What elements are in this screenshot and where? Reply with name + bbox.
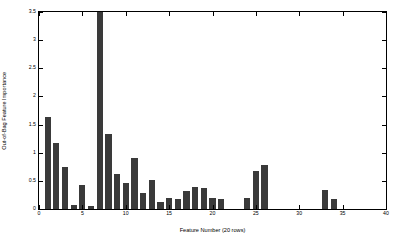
bar bbox=[149, 180, 155, 209]
x-axis-tick bbox=[299, 205, 300, 209]
x-axis-tick-top bbox=[256, 12, 257, 16]
x-axis-tick-label: 35 bbox=[340, 211, 346, 216]
y-axis-tick-right bbox=[382, 68, 386, 69]
bar bbox=[88, 206, 94, 209]
y-axis-tick bbox=[39, 68, 43, 69]
y-axis-tick-label: 1 bbox=[33, 150, 36, 155]
bar bbox=[53, 143, 59, 209]
y-axis-label: Out-of-Bag Feature Importance bbox=[0, 11, 10, 210]
y-axis-tick-label: 3.5 bbox=[29, 9, 36, 14]
x-axis-tick-top bbox=[299, 12, 300, 16]
x-axis-tick-top bbox=[213, 12, 214, 16]
y-axis-tick-right bbox=[382, 153, 386, 154]
y-axis-tick bbox=[39, 96, 43, 97]
x-axis-tick-top bbox=[343, 12, 344, 16]
bar bbox=[183, 191, 189, 209]
x-axis-tick-label: 5 bbox=[81, 211, 84, 216]
x-axis-tick bbox=[386, 205, 387, 209]
x-axis-tick-label: 10 bbox=[123, 211, 129, 216]
bar bbox=[71, 205, 77, 210]
bar bbox=[253, 171, 259, 209]
bar bbox=[140, 193, 146, 209]
x-axis-tick bbox=[343, 205, 344, 209]
x-axis-tick-label: 30 bbox=[296, 211, 302, 216]
x-axis-tick bbox=[39, 205, 40, 209]
x-axis-tick-label: 40 bbox=[383, 211, 389, 216]
figure: Out-of-Bag Feature Importance 00.511.522… bbox=[0, 0, 406, 245]
bar bbox=[175, 199, 181, 209]
x-axis-tick-top bbox=[169, 12, 170, 16]
x-axis-tick-top bbox=[386, 12, 387, 16]
bar bbox=[105, 134, 111, 209]
y-axis-label-text: Out-of-Bag Feature Importance bbox=[2, 72, 8, 150]
y-axis-tick-right bbox=[382, 181, 386, 182]
y-axis-tick-right bbox=[382, 125, 386, 126]
y-axis-tick-right bbox=[382, 40, 386, 41]
y-axis-tick-label: 3 bbox=[33, 38, 36, 43]
bar bbox=[322, 190, 328, 209]
bar bbox=[62, 167, 68, 209]
bar bbox=[114, 174, 120, 209]
x-axis-tick bbox=[126, 205, 127, 209]
x-axis-tick-top bbox=[126, 12, 127, 16]
x-axis-tick bbox=[82, 205, 83, 209]
y-axis-tick-label: 0 bbox=[33, 206, 36, 211]
bar bbox=[244, 198, 250, 209]
y-axis-tick-label: 1.5 bbox=[29, 122, 36, 127]
y-axis-tick-label: 2 bbox=[33, 94, 36, 99]
bar bbox=[331, 199, 337, 209]
x-axis-tick-label: 20 bbox=[210, 211, 216, 216]
x-axis-tick-label: 0 bbox=[38, 211, 41, 216]
y-axis-tick bbox=[39, 125, 43, 126]
bar bbox=[261, 165, 267, 209]
bar bbox=[201, 188, 207, 209]
x-axis-tick bbox=[256, 205, 257, 209]
x-axis-tick-top bbox=[39, 12, 40, 16]
y-axis-tick bbox=[39, 181, 43, 182]
bar bbox=[131, 158, 137, 209]
x-axis-tick bbox=[213, 205, 214, 209]
bar bbox=[218, 199, 224, 209]
plot-area: 00.511.522.533.50510152025303540 bbox=[38, 11, 387, 210]
y-axis-tick-label: 2.5 bbox=[29, 66, 36, 71]
y-axis-tick-label: 0.5 bbox=[29, 178, 36, 183]
bar bbox=[192, 187, 198, 210]
bar bbox=[97, 12, 103, 209]
bars-layer bbox=[39, 12, 386, 209]
y-axis-tick-right bbox=[382, 96, 386, 97]
x-axis-tick-label: 15 bbox=[166, 211, 172, 216]
x-axis-tick-label: 25 bbox=[253, 211, 259, 216]
bar bbox=[157, 202, 163, 209]
y-axis-tick bbox=[39, 40, 43, 41]
x-axis-tick bbox=[169, 205, 170, 209]
y-axis-tick bbox=[39, 153, 43, 154]
bar bbox=[45, 117, 51, 209]
x-axis-tick-top bbox=[82, 12, 83, 16]
x-axis-label: Feature Number (20 rows) bbox=[38, 228, 387, 234]
